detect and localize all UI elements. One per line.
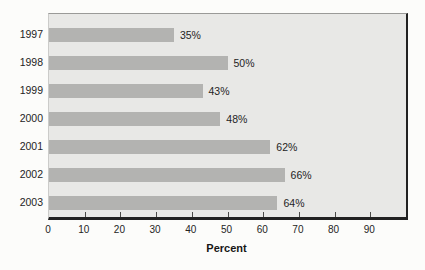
x-tick-label: 10 <box>69 224 99 235</box>
x-axis-title: Percent <box>48 242 405 254</box>
category-label: 1997 <box>0 27 43 41</box>
x-tick-mark <box>263 212 264 217</box>
x-tick-mark <box>120 212 121 217</box>
x-tick-label: 70 <box>283 224 313 235</box>
x-tick-label: 20 <box>104 224 134 235</box>
x-tick-mark <box>228 212 229 217</box>
bar-value-label: 62% <box>276 140 297 154</box>
bar-value-label: 64% <box>283 196 304 210</box>
plot-area: 35%50%43%48%62%66%64% <box>48 13 408 220</box>
category-label: 2002 <box>0 167 43 181</box>
bar <box>49 28 174 42</box>
bar-value-label: 43% <box>209 84 230 98</box>
x-tick-label: 30 <box>140 224 170 235</box>
bar-value-label: 66% <box>291 168 312 182</box>
bar-chart: 35%50%43%48%62%66%64% Percent 1997199819… <box>0 0 425 270</box>
category-label: 2000 <box>0 111 43 125</box>
bar <box>49 168 285 182</box>
bar <box>49 56 228 70</box>
x-tick-label: 50 <box>212 224 242 235</box>
bar <box>49 140 270 154</box>
bar-value-label: 50% <box>234 56 255 70</box>
bar <box>49 112 220 126</box>
x-tick-mark <box>299 212 300 217</box>
x-tick-label: 90 <box>354 224 384 235</box>
bar <box>49 84 203 98</box>
bar <box>49 196 277 210</box>
category-label: 2001 <box>0 139 43 153</box>
x-tick-mark <box>85 212 86 217</box>
bar-value-label: 35% <box>180 28 201 42</box>
x-tick-mark <box>370 212 371 217</box>
category-label: 1999 <box>0 83 43 97</box>
bar-value-label: 48% <box>226 112 247 126</box>
category-label: 2003 <box>0 195 43 209</box>
x-tick-label: 0 <box>33 224 63 235</box>
x-tick-label: 40 <box>176 224 206 235</box>
category-label: 1998 <box>0 55 43 69</box>
x-tick-label: 80 <box>319 224 349 235</box>
x-tick-mark <box>192 212 193 217</box>
x-tick-mark <box>335 212 336 217</box>
x-tick-label: 60 <box>247 224 277 235</box>
x-tick-mark <box>156 212 157 217</box>
